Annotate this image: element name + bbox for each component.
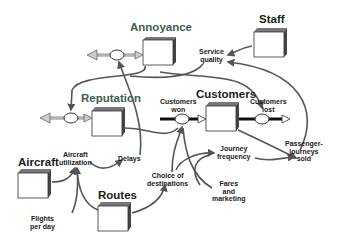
stock-label-annoyance: Annoyance — [130, 22, 192, 34]
reputation-flow — [40, 113, 92, 123]
label-aircraft-utilization: Aircraft utilization — [59, 151, 92, 166]
stock-label-reputation: Reputation — [81, 93, 141, 105]
label-customers-lost: Customers lost — [250, 98, 287, 113]
label-journey-frequency: Journey frequency — [217, 145, 250, 160]
stock-flow-diagram — [0, 0, 342, 243]
label-choice-of-destinations: Choice of destinations — [147, 172, 188, 187]
stock-box-aircraft — [18, 169, 51, 198]
stock-label-aircraft: Aircraft — [18, 157, 59, 169]
label-passenger-journeys-sold: Passenger- journeys sold — [285, 140, 323, 163]
stock-box-staff — [254, 28, 287, 57]
stock-box-reputation — [92, 107, 125, 136]
annoyance-flow — [87, 50, 143, 60]
customers-inflow — [160, 114, 206, 124]
stock-label-routes: Routes — [98, 190, 137, 202]
label-customers-won: Customers won — [160, 98, 197, 113]
label-service-quality: Service quality — [199, 48, 224, 63]
stock-label-customers: Customers — [196, 89, 256, 101]
stock-box-routes — [98, 202, 131, 231]
label-flights-per-day: Flights per day — [30, 215, 55, 230]
stock-box-annoyance — [143, 37, 176, 65]
stock-label-staff: Staff — [259, 14, 285, 26]
causal-links — [52, 46, 307, 213]
stock-box-customers — [206, 102, 239, 131]
customers-outflow — [239, 114, 290, 124]
label-delays: Delays — [118, 155, 141, 163]
label-fares-and-marketing: Fares and marketing — [212, 180, 245, 203]
